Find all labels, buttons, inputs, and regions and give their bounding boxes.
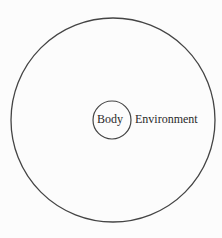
body-label: Body	[97, 112, 123, 127]
environment-label: Environment	[135, 112, 198, 127]
diagram-canvas: Body Environment	[0, 0, 222, 238]
